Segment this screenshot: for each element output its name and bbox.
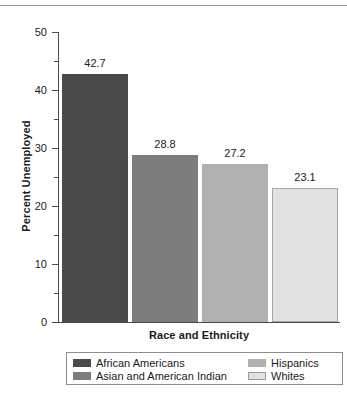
bar (132, 155, 198, 322)
legend-label: Hispanics (271, 357, 319, 369)
chart-legend: African AmericansAsian and American Indi… (66, 352, 343, 385)
y-tick-major (52, 322, 58, 323)
legend-column-right: HispanicsWhites (248, 357, 319, 383)
bars-layer: 42.728.827.223.1 (0, 0, 347, 322)
bar (62, 74, 128, 322)
legend-label: Asian and American Indian (96, 370, 227, 382)
x-axis-line (58, 322, 340, 323)
bar-chart: 01020304050 Percent Unemployed 42.728.82… (0, 0, 347, 340)
legend-item: African Americans (73, 357, 227, 369)
bar-value-label: 28.8 (132, 139, 198, 150)
legend-swatch (73, 359, 91, 367)
legend-label: Whites (271, 370, 305, 382)
legend-label: African Americans (96, 357, 185, 369)
legend-item: Hispanics (248, 357, 319, 369)
legend-item: Asian and American Indian (73, 370, 227, 382)
legend-swatch (248, 372, 266, 380)
legend-swatch (73, 372, 91, 380)
bar (272, 188, 338, 322)
legend-item: Whites (248, 370, 319, 382)
legend-swatch (248, 359, 266, 367)
bar-value-label: 42.7 (62, 58, 128, 69)
bar-value-label: 23.1 (272, 172, 338, 183)
bar-value-label: 27.2 (202, 148, 268, 159)
legend-column-left: African AmericansAsian and American Indi… (73, 357, 227, 383)
x-axis-title: Race and Ethnicity (58, 329, 340, 341)
bar (202, 164, 268, 322)
